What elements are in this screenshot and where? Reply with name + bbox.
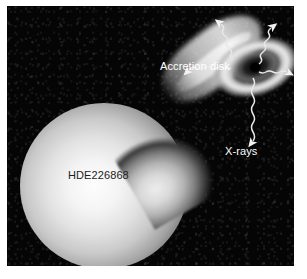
accretion-disk-label: Accretion disk — [160, 60, 230, 73]
star-name-label: HDE226868 — [68, 169, 129, 182]
xrays-label: X-rays — [225, 145, 257, 158]
figure-canvas: Accretion disk X-rays HDE226868 — [0, 0, 307, 279]
space-background: Accretion disk X-rays HDE226868 — [7, 6, 294, 266]
